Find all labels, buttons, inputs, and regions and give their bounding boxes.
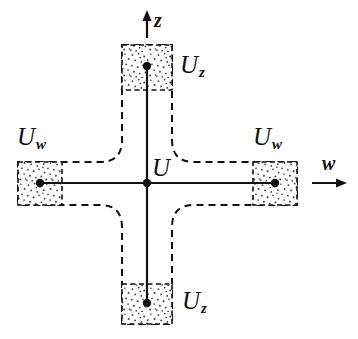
label-u-w-left: Uw — [17, 124, 46, 152]
label-u-z-top-sub: z — [199, 64, 205, 80]
label-u-w-right-base: U — [253, 123, 271, 150]
label-u-w-right-sub: w — [272, 136, 282, 152]
w-axis-arrow-icon — [312, 179, 347, 188]
node-dot-center — [143, 179, 151, 187]
label-u-z-bottom: Uz — [182, 288, 207, 316]
label-u-w-right: Uw — [253, 124, 282, 152]
label-u-w-left-base: U — [17, 123, 35, 150]
figure-canvas: Uz Uz Uw Uw U z w — [0, 0, 358, 339]
node-dot-left — [36, 179, 44, 187]
label-u-center-base: U — [152, 154, 170, 181]
node-dot-right — [271, 179, 279, 187]
axis-label-z: z — [154, 10, 162, 30]
node-dot-bottom — [143, 299, 151, 307]
label-u-z-bottom-sub: z — [201, 300, 207, 316]
label-u-center: U — [152, 155, 170, 180]
z-axis-arrow-icon — [142, 10, 151, 38]
diagram-svg — [0, 0, 358, 339]
label-u-w-left-sub: w — [36, 136, 46, 152]
node-dot-top — [143, 62, 151, 70]
axis-label-w: w — [322, 153, 335, 173]
label-u-z-top: Uz — [180, 52, 205, 80]
label-u-z-top-base: U — [180, 51, 198, 78]
label-u-z-bottom-base: U — [182, 287, 200, 314]
